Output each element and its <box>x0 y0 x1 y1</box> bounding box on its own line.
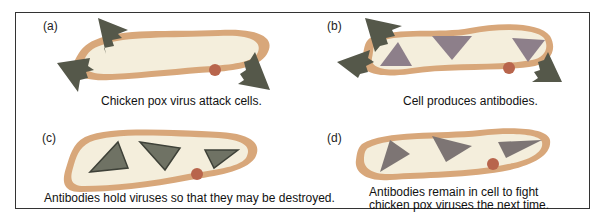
virus-icon <box>337 50 374 78</box>
panel-c: (c) Antibodies hold viruses so that they… <box>0 112 300 224</box>
panel-caption-line-2: chicken pox viruses the next time. <box>369 199 549 212</box>
panel-caption: Cell produces antibodies. <box>403 95 538 108</box>
nucleus-icon <box>209 64 221 76</box>
panel-d: (d) Antibodies remain in cell to fight c… <box>300 112 605 224</box>
panel-a: (a) Chicken pox virus attack cells. <box>0 0 300 112</box>
panel-label: (c) <box>42 131 56 145</box>
cell-illustration-c <box>0 112 300 224</box>
panel-label: (b) <box>327 19 342 33</box>
panel-label: (a) <box>43 19 58 33</box>
nucleus-icon <box>487 158 499 170</box>
panel-caption: Chicken pox virus attack cells. <box>101 95 262 108</box>
nucleus-icon <box>503 62 515 74</box>
panel-label: (d) <box>327 131 342 145</box>
panel-caption: Antibodies hold viruses so that they may… <box>44 192 335 205</box>
panel-b: (b) Cell produces antibodies. <box>300 0 605 112</box>
nucleus-icon <box>191 168 203 180</box>
